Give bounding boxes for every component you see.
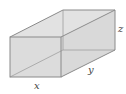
label-y: y bbox=[87, 64, 94, 75]
label-z: z bbox=[117, 23, 124, 34]
label-x: x bbox=[34, 80, 40, 91]
front-face bbox=[10, 37, 61, 77]
box-diagram: x y z bbox=[0, 0, 126, 94]
